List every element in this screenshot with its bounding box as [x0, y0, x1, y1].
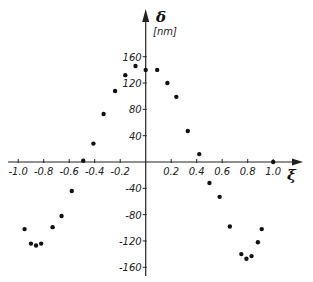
data-point	[244, 257, 248, 261]
data-point	[133, 64, 137, 68]
data-point	[113, 89, 117, 93]
x-tick-label: -0.8	[34, 166, 54, 177]
data-point	[197, 152, 201, 156]
x-axis-title: ξ	[287, 166, 297, 184]
y-axis-unit: [nm]	[153, 26, 177, 37]
data-point	[91, 141, 95, 145]
y-tick-label: 160	[123, 52, 142, 63]
x-tick-label: 0.6	[214, 166, 230, 177]
data-point	[165, 81, 169, 85]
y-tick-label: -40	[125, 183, 141, 194]
x-tick-label: 0.2	[163, 166, 179, 177]
x-tick-label: -0.6	[59, 166, 79, 177]
data-point	[271, 160, 275, 164]
data-point	[29, 241, 33, 245]
data-point	[39, 241, 43, 245]
data-point	[228, 224, 232, 228]
data-point	[59, 214, 63, 218]
data-point	[101, 112, 105, 116]
data-point	[217, 195, 221, 199]
y-tick-label: 40	[129, 131, 142, 142]
y-tick-label: -120	[119, 236, 142, 247]
data-point	[155, 68, 159, 72]
x-tick-label: -0.2	[110, 166, 130, 177]
x-axis-arrow-icon	[292, 159, 303, 166]
x-tick-label: 0.8	[240, 166, 256, 177]
axes	[8, 9, 303, 276]
scatter-chart: -1.0-0.8-0.6-0.4-0.20.20.40.60.81.0 1601…	[0, 0, 313, 282]
data-point	[22, 227, 26, 231]
data-point	[123, 73, 127, 77]
data-point	[81, 158, 85, 162]
data-point	[207, 181, 211, 185]
x-tick-label: 1.0	[265, 166, 281, 177]
data-point	[256, 240, 260, 244]
data-point	[186, 129, 190, 133]
y-tick-label: 80	[129, 104, 142, 115]
x-tick-label: -1.0	[8, 166, 28, 177]
y-tick-label: -160	[119, 262, 142, 273]
data-point	[249, 254, 253, 258]
x-tick-label: 0.4	[189, 166, 205, 177]
data-point	[34, 243, 38, 247]
y-axis-title: δ	[155, 8, 166, 26]
data-point	[144, 68, 148, 72]
data-point	[260, 227, 264, 231]
y-tick-label: 120	[123, 78, 142, 89]
y-axis-arrow-icon	[142, 9, 149, 22]
data-point	[239, 252, 243, 256]
data-point	[50, 225, 54, 229]
data-point	[174, 95, 178, 99]
y-tick-label: -80	[125, 210, 141, 221]
x-tick-label: -0.4	[85, 166, 105, 177]
data-point	[70, 189, 74, 193]
